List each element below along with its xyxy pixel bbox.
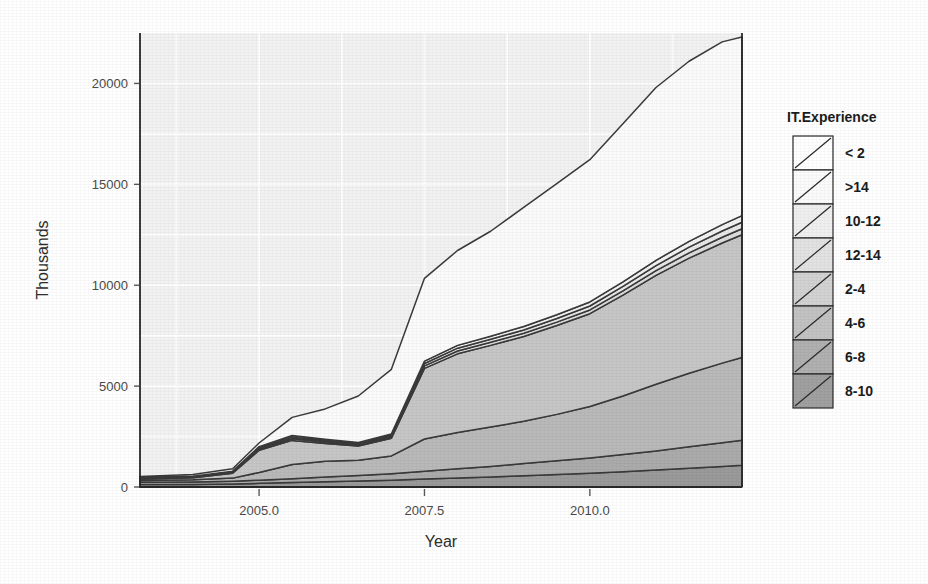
- ytick-label: 20000: [92, 76, 128, 91]
- legend-label: < 2: [845, 145, 865, 161]
- ytick-label: 15000: [92, 177, 128, 192]
- xtick-label: 2005.0: [239, 503, 279, 518]
- legend-entry--2[interactable]: < 2: [793, 136, 865, 170]
- legend-entry-12-14[interactable]: 12-14: [793, 238, 881, 272]
- ytick-label: 10000: [92, 278, 128, 293]
- ytick-label: 5000: [99, 379, 128, 394]
- x-axis-title: Year: [425, 533, 458, 550]
- legend-label: 8-10: [845, 383, 873, 399]
- legend-label: 2-4: [845, 281, 865, 297]
- legend-label: 10-12: [845, 213, 881, 229]
- y-axis-title: Thousands: [34, 220, 51, 299]
- ytick-label: 0: [121, 480, 128, 495]
- legend-title: IT.Experience: [787, 109, 877, 125]
- legend-entry--14[interactable]: >14: [793, 170, 869, 204]
- xtick-label: 2010.0: [570, 503, 610, 518]
- legend-label: 12-14: [845, 247, 881, 263]
- legend-label: 6-8: [845, 349, 865, 365]
- legend-entry-10-12[interactable]: 10-12: [793, 204, 881, 238]
- legend-label: >14: [845, 179, 869, 195]
- legend-label: 4-6: [845, 315, 865, 331]
- xtick-label: 2007.5: [405, 503, 445, 518]
- legend-entry-8-10[interactable]: 8-10: [793, 374, 873, 408]
- legend-entry-6-8[interactable]: 6-8: [793, 340, 865, 374]
- chart-root: 050001000015000200002005.02007.52010.0Ye…: [0, 0, 928, 584]
- legend-entry-2-4[interactable]: 2-4: [793, 272, 865, 306]
- area-chart: 050001000015000200002005.02007.52010.0Ye…: [0, 0, 928, 584]
- legend-entry-4-6[interactable]: 4-6: [793, 306, 865, 340]
